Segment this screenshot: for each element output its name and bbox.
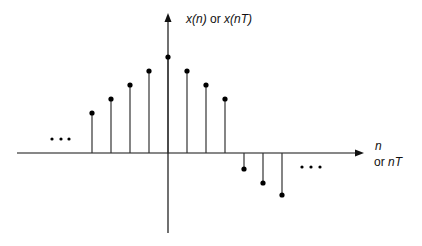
y-label-var-n: n [196,12,203,26]
stem-dot [260,180,265,185]
y-label-part: x( [186,12,196,26]
stem [184,68,189,153]
stem-dot [127,82,132,87]
y-axis-label: x(n) or x(nT) [186,12,252,26]
stem-dot [146,68,151,73]
ellipsis-right [300,165,321,168]
stem [108,96,113,153]
x-axis-label-line1: n [375,139,382,153]
x-label-or: or [374,155,388,169]
stem-dot [108,96,113,101]
stem [146,68,151,153]
x-label-nT: nT [388,155,402,169]
stem [203,82,208,153]
stem [165,54,170,153]
y-label-part: ) [248,12,252,26]
y-axis-arrow-icon [165,13,172,22]
y-label-part: x( [224,12,234,26]
stem-plot [0,0,422,246]
stem-dot [222,96,227,101]
y-label-or: or [207,12,224,26]
stem [279,153,284,198]
stem [127,82,132,153]
stem-dot [241,166,246,171]
stem-dot [165,54,170,59]
stems-group [89,54,284,197]
stem-dot [279,192,284,197]
x-axis-arrow-icon [355,150,364,157]
x-axis-label-line2: or nT [374,155,402,169]
stem-dot [203,82,208,87]
x-label-n: n [375,139,382,153]
stem-dot [184,68,189,73]
y-label-var-nT: nT [234,12,248,26]
stem [241,153,246,172]
stem-dot [89,110,94,115]
stem [260,153,265,186]
stem [89,110,94,153]
ellipsis-left [50,137,70,140]
stem [222,96,227,153]
